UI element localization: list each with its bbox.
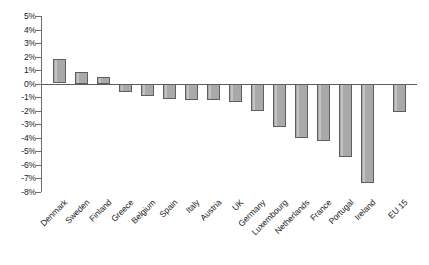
y-axis-tick-mark [36, 151, 41, 152]
bar-chart: 5%4%3%2%1%0%-1%-2%-3%-4%-5%-6%-7%-8% Den… [0, 0, 429, 265]
x-axis-tick-label: EU 15 [387, 198, 409, 220]
x-axis-tick-label: UK [231, 198, 245, 212]
y-axis-tick-mark [36, 30, 41, 31]
y-axis-tick-mark [36, 111, 41, 112]
x-axis-tick-label: Italy [184, 198, 201, 215]
y-axis-tick-mark [36, 124, 41, 125]
y-axis-tick-mark [36, 43, 41, 44]
y-axis-tick-mark [36, 57, 41, 58]
y-axis-tick-mark [36, 178, 41, 179]
y-axis-tick-mark [36, 70, 41, 71]
y-axis-tick-mark [36, 165, 41, 166]
x-axis-tick-label: Spain [158, 198, 179, 219]
y-axis-tick-mark [36, 84, 41, 85]
x-axis-tick-label: Ireland [353, 198, 377, 222]
x-axis: DenmarkSwedenFinlandGreeceBelgiumSpainIt… [0, 0, 429, 265]
x-axis-tick-label: Austria [199, 198, 223, 222]
y-axis-tick-mark [36, 97, 41, 98]
y-axis-tick-mark [36, 138, 41, 139]
x-axis-tick-label: Denmark [39, 198, 69, 228]
x-axis-tick-label: Finland [88, 198, 113, 223]
y-axis-tick-mark [36, 192, 41, 193]
y-axis-tick-mark [36, 16, 41, 17]
